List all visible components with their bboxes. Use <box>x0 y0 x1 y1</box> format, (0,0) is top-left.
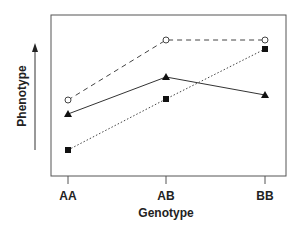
series-solid-line <box>68 77 265 114</box>
x-axis-label: Genotype <box>138 206 194 220</box>
square-marker <box>262 46 268 52</box>
open-circle-marker <box>262 37 268 43</box>
open-circle-marker <box>163 37 169 43</box>
square-marker <box>65 147 71 153</box>
arrow-head-icon <box>32 43 38 52</box>
triangle-marker <box>162 73 170 80</box>
phenotype-genotype-chart: AA AB BB Genotype Phenotype <box>0 0 301 230</box>
y-axis-label: Phenotype <box>15 65 29 127</box>
x-tick-label-bb: BB <box>256 189 274 203</box>
square-marker <box>163 96 169 102</box>
open-circle-marker <box>65 97 71 103</box>
series-dashed-line <box>68 40 265 100</box>
x-tick-label-aa: AA <box>59 189 77 203</box>
triangle-marker <box>64 110 72 117</box>
x-tick-label-ab: AB <box>157 189 175 203</box>
